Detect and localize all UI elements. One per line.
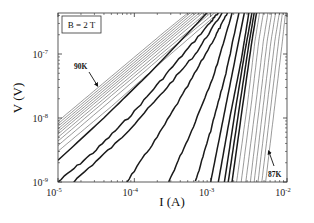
iv-curves-chart: 10-510-410-310-2 10-910-810-7 B = 2 T 90… xyxy=(0,0,314,223)
iv-curve xyxy=(211,13,245,182)
iv-curve xyxy=(58,13,207,160)
iv-curve xyxy=(58,13,218,182)
iv-curve xyxy=(262,13,283,182)
iv-curve xyxy=(73,13,222,183)
iv-curve xyxy=(237,13,260,182)
temperature-label: 87K xyxy=(268,170,282,179)
iv-curve xyxy=(224,13,252,182)
iv-curve xyxy=(228,13,254,182)
iv-curve xyxy=(127,13,228,182)
x-tick-label: 10-3 xyxy=(199,186,214,198)
y-axis-title: V (V) xyxy=(10,83,25,113)
y-tick-label: 10-8 xyxy=(33,112,48,124)
temperature-label: 90K xyxy=(74,62,88,71)
x-tick-label: 10-2 xyxy=(275,186,290,198)
x-axis-title: I (A) xyxy=(159,194,185,209)
y-tick-label: 10-9 xyxy=(33,176,48,188)
curve-group xyxy=(58,13,286,183)
iv-curve xyxy=(58,13,218,151)
x-tick-label: 10-4 xyxy=(123,186,139,198)
y-tick-label: 10-7 xyxy=(33,48,49,60)
annotation-arrow xyxy=(269,152,274,166)
annotation-arrow xyxy=(89,72,97,85)
legend-text: B = 2 T xyxy=(68,20,96,30)
legend-box: B = 2 T xyxy=(62,16,101,33)
x-tick-label: 10-5 xyxy=(46,186,61,198)
